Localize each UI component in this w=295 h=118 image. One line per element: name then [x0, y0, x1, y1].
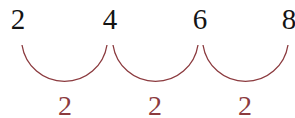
- number-2: 2: [11, 4, 26, 34]
- jump-arc-2: [113, 45, 198, 81]
- step-label-3: 2: [238, 92, 252, 118]
- jump-arc-1: [22, 45, 107, 81]
- number-8: 8: [282, 4, 295, 34]
- number-4: 4: [103, 4, 118, 34]
- jump-arc-3: [203, 45, 288, 81]
- number-6: 6: [193, 4, 208, 34]
- step-label-2: 2: [148, 92, 162, 118]
- step-label-1: 2: [58, 92, 72, 118]
